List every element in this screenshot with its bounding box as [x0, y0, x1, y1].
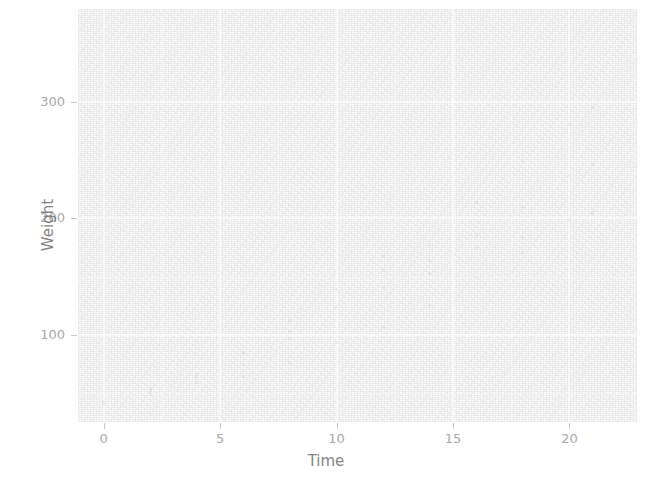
y-axis-tick-mark — [71, 102, 77, 103]
x-axis-tick-mark — [569, 423, 570, 429]
x-axis-tick-mark — [453, 423, 454, 429]
x-axis-tick-label: 5 — [200, 431, 240, 446]
y-axis-tick-mark — [71, 335, 77, 336]
x-axis-tick-label: 20 — [549, 431, 589, 446]
y-axis-tick-label: 100 — [19, 327, 65, 342]
plot-panel — [78, 9, 637, 422]
x-axis-tick-label: 15 — [433, 431, 473, 446]
x-axis-tick-mark — [337, 423, 338, 429]
x-axis-tick-label: 10 — [317, 431, 357, 446]
x-axis-tick-mark — [220, 423, 221, 429]
y-axis-tick-label: 300 — [19, 94, 65, 109]
chart-figure: 30020010005101520 Weight Time — [0, 0, 652, 498]
y-axis-tick-mark — [71, 218, 77, 219]
x-axis-tick-mark — [104, 423, 105, 429]
x-axis-title: Time — [0, 452, 652, 470]
y-axis-title: Weight — [39, 199, 57, 251]
x-axis-tick-label: 0 — [84, 431, 124, 446]
